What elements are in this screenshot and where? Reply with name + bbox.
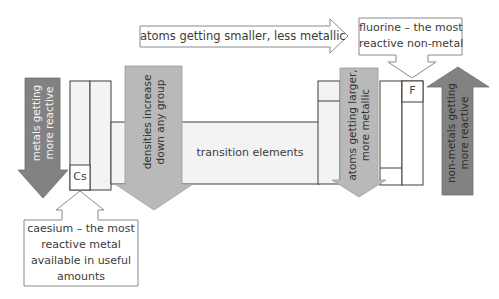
group-2-column	[90, 81, 111, 190]
densities-label: densities increase down any group	[141, 75, 167, 170]
atoms-larger-line2: more metallic	[359, 69, 372, 180]
nonmetals-reactive-label: non-metals getting more reactive	[445, 83, 471, 183]
densities-line1: densities increase	[141, 75, 154, 170]
nonmetals-reactive-line2: more reactive	[458, 83, 471, 183]
cs-symbol: Cs	[70, 170, 90, 183]
periodic-trends-diagram: atoms getting smaller, less metallic flu…	[0, 0, 499, 299]
fluorine-callout-line1: fluorine – the most	[359, 21, 462, 35]
f-symbol: F	[402, 84, 423, 97]
densities-line2: down any group	[154, 75, 167, 170]
nonmetals-reactive-line1: non-metals getting	[445, 83, 458, 183]
caesium-callout-line4: amounts	[24, 270, 138, 284]
metals-reactive-line1: metals getting	[30, 85, 43, 162]
transition-elements-label: transition elements	[182, 146, 318, 160]
atoms-larger-label: atoms getting larger, more metallic	[346, 69, 372, 180]
group-3-column	[318, 81, 340, 184]
atoms-smaller-label: atoms getting smaller, less metallic	[140, 29, 330, 43]
group-5-column	[380, 81, 402, 185]
metals-reactive-line2: more reactive	[43, 85, 56, 162]
metals-reactive-label: metals getting more reactive	[30, 85, 56, 162]
atoms-larger-line1: atoms getting larger,	[346, 69, 359, 180]
caesium-callout-line3: available in useful	[24, 254, 138, 268]
fluorine-callout-line2: reactive non-metal	[359, 37, 462, 51]
caesium-callout-line2: reactive metal	[24, 238, 138, 252]
caesium-callout-line1: caesium – the most	[24, 222, 138, 236]
